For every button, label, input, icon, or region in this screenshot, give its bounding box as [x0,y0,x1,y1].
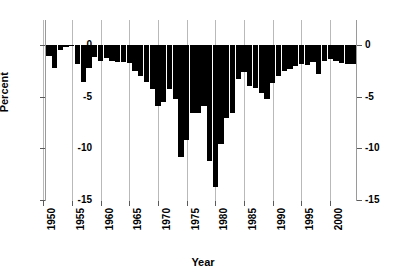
bar [287,45,292,69]
x-tick-label-1960: 1960 [105,208,115,230]
bar [218,45,223,144]
bar [195,45,200,113]
bar [236,45,241,79]
bar [173,45,178,99]
bar [259,45,264,93]
bar [282,45,287,71]
bar [52,45,57,68]
x-axis-title: Year [0,256,406,268]
bar-series [46,20,356,201]
bar [109,45,114,61]
bar [178,45,183,157]
y-tick-label-left--15: -15 [78,195,92,205]
y-tick-r--15 [357,200,362,201]
x-tick-1980 [215,201,216,206]
bar [339,45,344,63]
bar [81,45,86,82]
plot-area [46,20,356,201]
bar [276,45,281,76]
bar [328,45,333,59]
x-tick-label-1985: 1985 [248,208,258,230]
y-tick-label-left--5: -5 [83,92,92,102]
y-tick-r--5 [357,97,362,98]
bar [184,45,189,140]
x-tick-2000 [330,201,331,206]
bar [98,45,103,61]
bar [305,45,310,65]
x-tick-1990 [273,201,274,206]
bar [316,45,321,74]
bar [75,45,80,64]
chart-figure: Percent 0-5-10-15 0-5-10-15 195019551960… [0,0,406,275]
bar [264,45,269,99]
bar [207,45,212,161]
x-tick-label-1995: 1995 [305,208,315,230]
bar [58,45,63,50]
y-tick-label-right-0: 0 [365,40,371,50]
x-tick-1985 [244,201,245,206]
x-tick-1975 [187,201,188,206]
y-tick-l-0 [40,45,45,46]
bar [299,45,304,64]
bar [69,45,74,46]
x-tick-label-1990: 1990 [277,208,287,230]
x-tick-1965 [129,201,130,206]
bar [224,45,229,118]
y-tick-r-0 [357,45,362,46]
bar [92,45,97,57]
x-tick-1955 [72,201,73,206]
bar [161,45,166,102]
bar [155,45,160,106]
bar [150,45,155,89]
bar [121,45,126,62]
x-tick-label-1955: 1955 [76,208,86,230]
bar [115,45,120,62]
bar [190,45,195,113]
bar [132,45,137,71]
bar [270,45,275,83]
y-axis-title: Percent [0,72,10,112]
bar [127,45,132,63]
bar [230,45,235,113]
bar [241,45,246,72]
bar [247,45,252,86]
x-tick-label-1965: 1965 [133,208,143,230]
y-tick-label-right--15: -15 [365,195,379,205]
y-tick-label-left--10: -10 [78,143,92,153]
bar [46,45,51,56]
x-tick-1970 [158,201,159,206]
axis-spine-right [356,20,357,201]
bar [293,45,298,66]
x-tick-1995 [301,201,302,206]
bar [104,45,109,58]
x-tick-label-1970: 1970 [162,208,172,230]
bar [310,45,315,62]
bar [345,45,350,64]
y-tick-label-right--5: -5 [365,92,374,102]
bar [63,45,68,47]
bar [213,45,218,187]
gridline-1950 [43,20,44,201]
x-tick-label-1950: 1950 [47,208,57,230]
x-tick-label-1980: 1980 [219,208,229,230]
y-tick-r--10 [357,148,362,149]
y-tick-label-left-0: 0 [86,40,92,50]
x-tick-label-1975: 1975 [191,208,201,230]
bar [138,45,143,76]
bar [322,45,327,61]
bar [350,45,355,64]
bar [333,45,338,61]
bar [144,45,149,82]
bar [253,45,258,88]
x-tick-label-2000: 2000 [334,208,344,230]
y-tick-l--10 [40,148,45,149]
y-tick-label-right--10: -10 [365,143,379,153]
x-tick-1960 [101,201,102,206]
bar [167,45,172,89]
y-tick-l--5 [40,97,45,98]
bar [201,45,206,106]
x-tick-1950 [43,201,44,206]
